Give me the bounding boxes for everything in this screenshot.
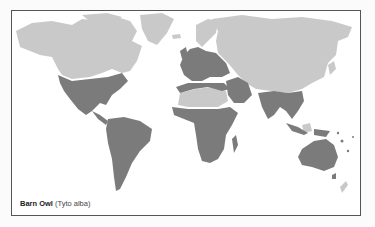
map-frame: Barn Owl (Tyto alba) xyxy=(11,10,361,216)
species-common-name: Barn Owl xyxy=(20,199,53,208)
world-distribution-map xyxy=(12,11,360,215)
map-caption: Barn Owl (Tyto alba) xyxy=(20,199,90,208)
species-scientific-name: (Tyto alba) xyxy=(55,199,90,208)
